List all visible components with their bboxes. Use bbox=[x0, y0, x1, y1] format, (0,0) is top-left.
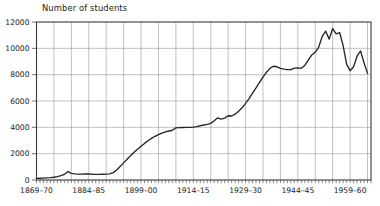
chart-plot-svg bbox=[0, 0, 380, 206]
chart-container: Number of students 020004000600080001000… bbox=[0, 0, 380, 206]
data-series-line bbox=[37, 29, 368, 179]
y-axis-tick-label: 0 bbox=[0, 176, 30, 185]
y-axis-tick-label: 10000 bbox=[0, 44, 30, 53]
y-axis-tick-label: 4000 bbox=[0, 123, 30, 132]
horizontal-gridlines bbox=[37, 48, 372, 153]
x-axis-tick-label: 1959–60 bbox=[318, 186, 380, 195]
y-axis-tick-label: 12000 bbox=[0, 18, 30, 27]
y-axis-tick-label: 8000 bbox=[0, 70, 30, 79]
y-axis-ticks bbox=[32, 22, 37, 180]
y-axis-tick-label: 2000 bbox=[0, 149, 30, 158]
y-axis-tick-label: 6000 bbox=[0, 97, 30, 106]
